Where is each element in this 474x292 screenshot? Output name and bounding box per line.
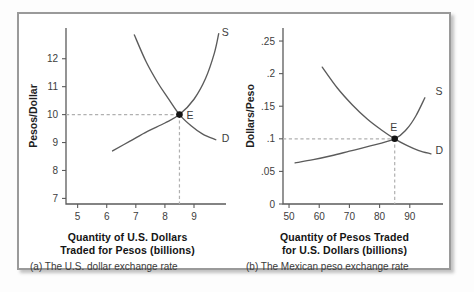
svg-text:E: E xyxy=(390,121,397,133)
svg-text:7: 7 xyxy=(133,211,139,222)
svg-text:D: D xyxy=(435,144,443,156)
chart-a-caption: (a) The U.S. dollar exchange rate xyxy=(30,261,178,272)
chart-a-x-axis-title: Quantity of U.S. Dollars Traded for Peso… xyxy=(19,231,236,256)
panel-b-peso-exchange-rate: 50607080900.05.1.15.2.25Dollars/PesoDSE … xyxy=(236,14,453,268)
chart-a-x-axis-title-line2: Traded for Pesos (billions) xyxy=(19,244,236,257)
svg-text:.15: .15 xyxy=(261,101,275,112)
chart-b-x-axis-title: Quantity of Pesos Traded for U.S. Dollar… xyxy=(236,231,453,256)
svg-text:5: 5 xyxy=(75,211,81,222)
svg-text:S: S xyxy=(435,85,442,97)
chart-b-svg: 50607080900.05.1.15.2.25Dollars/PesoDSE xyxy=(236,14,453,231)
svg-text:50: 50 xyxy=(283,211,295,222)
svg-text:0: 0 xyxy=(269,199,275,210)
svg-text:.05: .05 xyxy=(261,166,275,177)
svg-text:60: 60 xyxy=(314,211,326,222)
svg-text:9: 9 xyxy=(52,137,58,148)
svg-text:6: 6 xyxy=(104,211,110,222)
svg-text:S: S xyxy=(222,26,229,38)
svg-text:70: 70 xyxy=(344,211,356,222)
chart-a-svg: 56789789101112Pesos/DollarDSE xyxy=(19,14,236,231)
figure-root: 56789789101112Pesos/DollarDSE Quantity o… xyxy=(0,0,474,292)
chart-b-x-axis-title-line1: Quantity of Pesos Traded xyxy=(236,231,453,244)
figure-frame: 56789789101112Pesos/DollarDSE Quantity o… xyxy=(17,12,451,270)
svg-text:.25: .25 xyxy=(261,36,275,47)
svg-text:10: 10 xyxy=(47,109,59,120)
svg-text:80: 80 xyxy=(374,211,386,222)
svg-text:12: 12 xyxy=(47,53,59,64)
svg-text:9: 9 xyxy=(191,211,197,222)
svg-text:Dollars/Peso: Dollars/Peso xyxy=(244,84,256,148)
svg-text:11: 11 xyxy=(48,81,59,92)
svg-text:.1: .1 xyxy=(267,133,276,144)
panel-a-dollar-exchange-rate: 56789789101112Pesos/DollarDSE Quantity o… xyxy=(19,14,236,268)
svg-text:8: 8 xyxy=(162,211,168,222)
svg-text:7: 7 xyxy=(52,193,58,204)
svg-text:D: D xyxy=(222,132,230,144)
svg-text:E: E xyxy=(186,109,193,121)
chart-b-caption: (b) The Mexican peso exchange rate xyxy=(246,261,409,272)
svg-text:.2: .2 xyxy=(267,68,276,79)
svg-text:Pesos/Dollar: Pesos/Dollar xyxy=(27,84,39,148)
svg-text:8: 8 xyxy=(52,165,58,176)
chart-a-x-axis-title-line1: Quantity of U.S. Dollars xyxy=(19,231,236,244)
svg-text:90: 90 xyxy=(404,211,416,222)
chart-b-x-axis-title-line2: for U.S. Dollars (billions) xyxy=(236,244,453,257)
